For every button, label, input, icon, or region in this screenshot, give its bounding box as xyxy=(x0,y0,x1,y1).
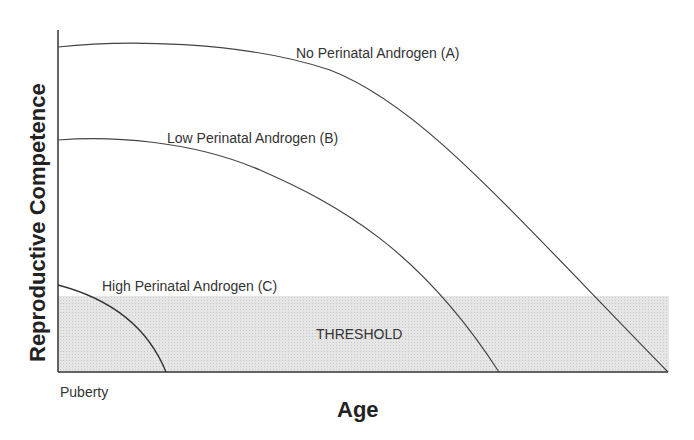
x-tick-puberty: Puberty xyxy=(60,384,108,400)
chart-plot xyxy=(0,0,694,440)
series-c-label: High Perinatal Androgen (C) xyxy=(102,278,277,294)
x-axis-label: Age xyxy=(337,397,379,423)
threshold-label: THRESHOLD xyxy=(316,326,402,342)
series-a-label: No Perinatal Androgen (A) xyxy=(296,45,459,61)
y-axis-label: Reproductive Competence xyxy=(25,83,51,362)
series-b-label: Low Perinatal Androgen (B) xyxy=(167,130,338,146)
